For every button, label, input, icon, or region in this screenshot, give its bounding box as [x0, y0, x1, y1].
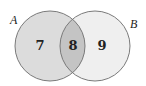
intersection-count: 8 — [68, 38, 77, 53]
set-b-only-count: 9 — [97, 38, 106, 53]
set-b-label: B — [130, 17, 138, 31]
set-a-only-count: 7 — [35, 38, 44, 53]
venn-diagram: A B 7 8 9 — [0, 0, 146, 86]
set-a-label: A — [9, 13, 18, 27]
